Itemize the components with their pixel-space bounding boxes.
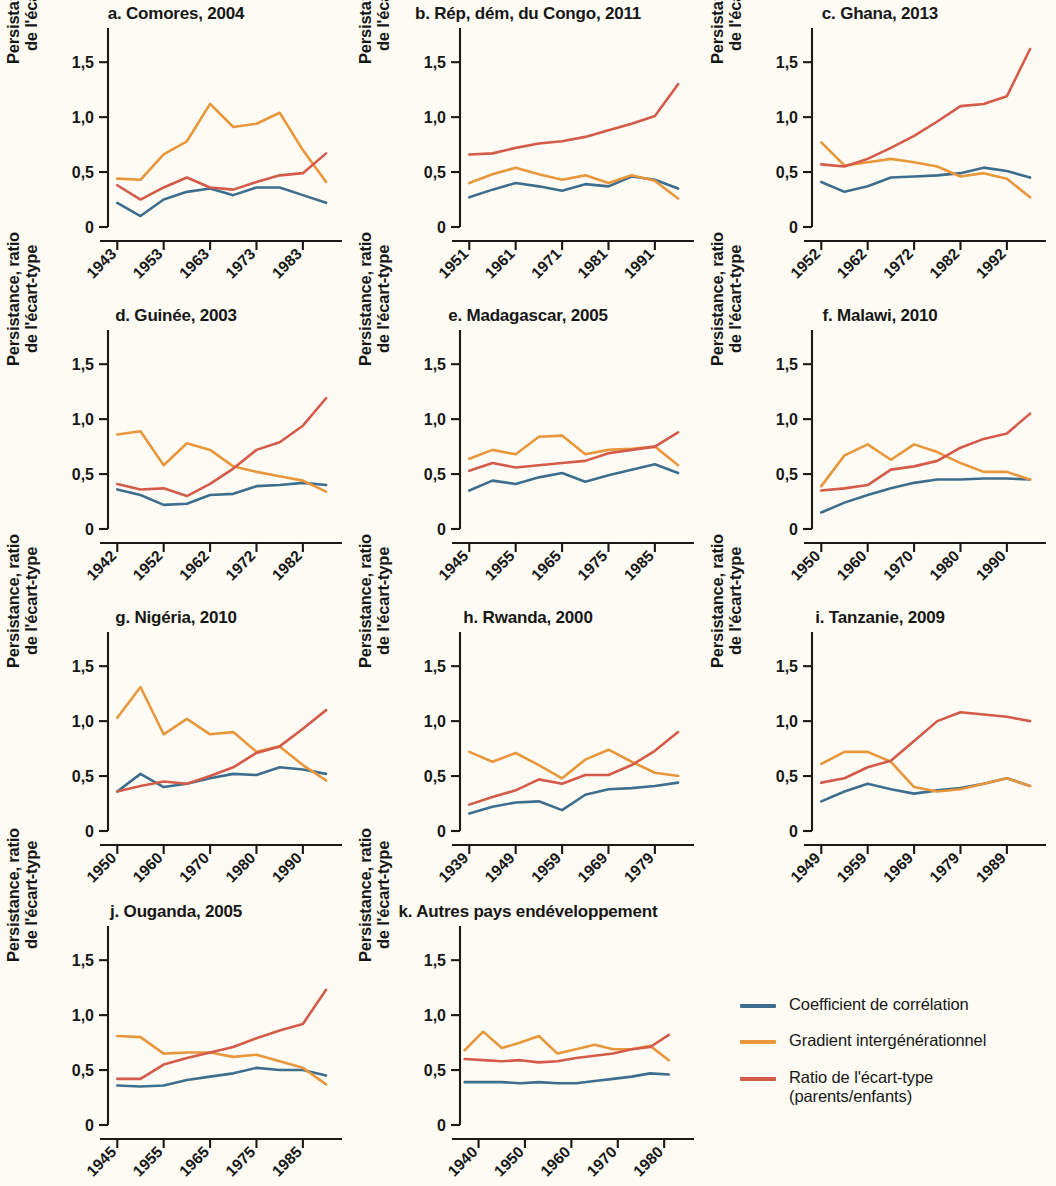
x-tick-label: 1952: [787, 245, 823, 281]
y-tick-label: 0: [789, 823, 798, 840]
x-tick-label: 1959: [833, 849, 870, 886]
y-tick-label: 0: [85, 1117, 94, 1134]
x-tick-label: 1949: [481, 849, 518, 886]
y-tick-label: 1,0: [776, 109, 798, 126]
legend-label-wrapper: Gradient intergénérationnel: [789, 1031, 986, 1050]
y-tick-label: 0: [437, 219, 446, 236]
x-tick-label: 1943: [83, 245, 120, 282]
legend-item-2: Ratio de l'écart-type(parents/enfants): [740, 1068, 1050, 1107]
y-tick-label: 1,5: [776, 356, 798, 373]
x-tick-label: 1950: [83, 849, 119, 885]
series-line-i-2: [821, 712, 1030, 782]
x-tick-label: 1960: [129, 849, 165, 885]
x-tick-label: 1940: [444, 1143, 480, 1179]
y-tick-label: 1,0: [424, 109, 446, 126]
x-tick-label: 1961: [481, 245, 518, 282]
series-line-h-1: [469, 750, 678, 779]
x-tick-label: 1969: [880, 849, 917, 886]
x-tick-label: 1971: [528, 245, 565, 282]
y-tick-label: 1,0: [72, 109, 94, 126]
legend-label: Ratio de l'écart-type: [789, 1068, 933, 1086]
figure-multi-panel-chart: a. Comores, 2004Persistance, ratiode l'é…: [0, 0, 1056, 1186]
y-tick-label: 1,5: [424, 356, 446, 373]
series-line-d-0: [117, 483, 326, 505]
y-tick-label: 0: [85, 823, 94, 840]
chart-panel-j: j. Ouganda, 2005Persistance, ratiode l'é…: [0, 898, 352, 1186]
legend-label-wrapper: Coefficient de corrélation: [789, 995, 969, 1014]
y-tick-label: 0: [437, 1117, 446, 1134]
series-line-k-1: [465, 1032, 669, 1061]
chart-legend: Coefficient de corrélationGradient inter…: [740, 995, 1050, 1124]
y-tick-label: 1,0: [72, 713, 94, 730]
y-tick-label: 0: [789, 219, 798, 236]
x-tick-label: 1970: [583, 1143, 619, 1179]
chart-panel-k: k. Autres pays endéveloppementPersistanc…: [352, 898, 704, 1186]
x-tick-label: 1955: [129, 1143, 166, 1180]
x-tick-label: 1945: [83, 1143, 120, 1180]
x-tick-label: 1960: [833, 547, 869, 583]
legend-item-1: Gradient intergénérationnel: [740, 1031, 1050, 1050]
x-tick-label: 1973: [222, 245, 259, 282]
y-tick-label: 1,5: [424, 952, 446, 969]
x-tick-label: 1979: [926, 849, 963, 886]
series-line-b-1: [469, 168, 678, 199]
y-tick-label: 1,0: [424, 1007, 446, 1024]
y-tick-label: 1,5: [72, 54, 94, 71]
x-tick-label: 1980: [630, 1143, 666, 1179]
x-tick-label: 1942: [83, 547, 119, 583]
x-tick-label: 1980: [222, 849, 258, 885]
y-tick-label: 0,5: [424, 1062, 446, 1079]
y-tick-label: 0,5: [424, 466, 446, 483]
x-tick-label: 1962: [176, 547, 212, 583]
y-tick-label: 0,5: [72, 768, 94, 785]
plot-area-i: 1,51,00,5019491959196919791989: [704, 604, 1056, 904]
y-tick-label: 1,5: [72, 952, 94, 969]
x-tick-label: 1955: [481, 547, 518, 584]
x-tick-label: 1975: [222, 1143, 259, 1180]
series-line-k-0: [465, 1073, 669, 1083]
y-tick-label: 0,5: [776, 768, 798, 785]
y-tick-label: 1,0: [72, 411, 94, 428]
y-tick-label: 0,5: [776, 466, 798, 483]
y-tick-label: 1,5: [72, 356, 94, 373]
x-tick-label: 1985: [621, 547, 658, 584]
series-line-a-1: [117, 104, 326, 182]
x-tick-label: 1962: [833, 245, 869, 281]
y-tick-label: 0: [85, 521, 94, 538]
x-tick-label: 1980: [926, 547, 962, 583]
x-tick-label: 1949: [787, 849, 824, 886]
legend-item-0: Coefficient de corrélation: [740, 995, 1050, 1014]
y-tick-label: 1,0: [776, 713, 798, 730]
y-tick-label: 0,5: [72, 466, 94, 483]
legend-label-wrapper: Ratio de l'écart-type(parents/enfants): [789, 1068, 933, 1107]
x-tick-label: 1985: [269, 1143, 306, 1180]
plot-area-k: 1,51,00,5019401950196019701980: [352, 898, 704, 1186]
x-tick-label: 1982: [926, 245, 962, 281]
y-tick-label: 0: [437, 521, 446, 538]
y-tick-label: 1,0: [72, 1007, 94, 1024]
series-line-f-0: [821, 478, 1030, 512]
legend-sublabel: (parents/enfants): [789, 1087, 933, 1106]
x-tick-label: 1965: [176, 1143, 213, 1180]
x-tick-label: 1983: [269, 245, 306, 282]
y-tick-label: 0,5: [72, 1062, 94, 1079]
x-tick-label: 1981: [574, 245, 611, 282]
x-tick-label: 1963: [176, 245, 213, 282]
x-tick-label: 1991: [621, 245, 658, 282]
series-line-h-0: [469, 783, 678, 814]
y-tick-label: 0: [85, 219, 94, 236]
chart-panel-i: i. Tanzanie, 2009Persistance, ratiode l'…: [704, 604, 1056, 904]
y-tick-label: 1,5: [72, 658, 94, 675]
y-tick-label: 0,5: [424, 768, 446, 785]
series-line-k-2: [465, 1035, 669, 1062]
x-tick-label: 1975: [574, 547, 611, 584]
y-tick-label: 1,0: [424, 411, 446, 428]
x-tick-label: 1950: [787, 547, 823, 583]
x-tick-label: 1951: [435, 245, 472, 282]
y-tick-label: 0: [789, 521, 798, 538]
y-tick-label: 0: [437, 823, 446, 840]
series-line-f-1: [821, 444, 1030, 486]
x-tick-label: 1945: [435, 547, 472, 584]
x-tick-label: 1953: [129, 245, 166, 282]
series-line-d-2: [117, 398, 326, 496]
